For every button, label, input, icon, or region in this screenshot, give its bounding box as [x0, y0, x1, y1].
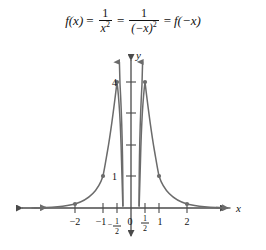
x-tick-label-2: 2 — [185, 216, 190, 227]
neg-half-numerator: 1 — [115, 217, 119, 226]
equation-equals-1: = — [86, 13, 93, 28]
equation-rhs: f(−x) — [174, 13, 201, 28]
denominator-exponent: 2 — [106, 20, 110, 29]
curve-right-branch — [145, 82, 230, 208]
y-axis-label: y — [135, 49, 141, 61]
fraction-numerator: 1 — [99, 7, 112, 19]
neg-half-denominator: 2 — [115, 227, 119, 236]
point-2-quarter — [185, 202, 189, 206]
equation-lhs: f(x) — [65, 13, 83, 28]
equation-equals-3: = — [164, 13, 171, 28]
equation-equals-2: = — [117, 13, 124, 28]
denominator-exponent: 2 — [153, 20, 157, 29]
x-axis-label: x — [235, 202, 241, 214]
y-tick-label-1: 1 — [112, 171, 117, 182]
graph-area: x y 4 1 −2 −1 0 1 2 − 1 2 1 2 — [0, 40, 266, 250]
figure-root: f(x)=1x2=1(−x)2=f(−x) — [0, 0, 266, 250]
half-numerator: 1 — [143, 214, 147, 223]
point-neg2-quarter — [73, 202, 77, 206]
x-tick-label-1: 1 — [158, 216, 163, 227]
x-tick-label-neg1: −1 — [96, 216, 107, 227]
fraction-denominator: x2 — [99, 22, 112, 34]
fraction-numerator: 1 — [129, 7, 158, 19]
x-tick-label-neg2: −2 — [70, 216, 81, 227]
fraction-denominator: (−x)2 — [129, 22, 158, 34]
x-tick-label-origin: 0 — [128, 216, 133, 227]
curve-left-branch — [32, 82, 123, 208]
fraction-one-over-neg-x-squared: 1(−x)2 — [129, 7, 158, 34]
point-neg1-1 — [101, 174, 105, 178]
fraction-one-over-x-squared: 1x2 — [99, 7, 112, 34]
x-tick-label-half: 1 2 — [141, 214, 149, 233]
point-1-1 — [157, 174, 161, 178]
x-tick-label-neg-half: − 1 2 — [108, 217, 121, 236]
y-axis — [126, 60, 136, 236]
point-half-4 — [143, 80, 147, 84]
half-denominator: 2 — [143, 224, 147, 233]
y-tick-label-4: 4 — [112, 77, 117, 88]
equation-line: f(x)=1x2=1(−x)2=f(−x) — [0, 8, 266, 35]
x-axis — [22, 203, 226, 213]
neg-half-sign: − — [108, 220, 113, 229]
denominator-base: (−x) — [131, 21, 152, 35]
